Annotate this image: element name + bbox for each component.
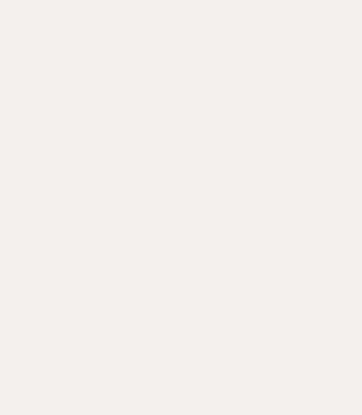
- chart-legend: [0, 369, 362, 415]
- line-chart: [0, 0, 362, 368]
- chart-figure: [0, 0, 362, 415]
